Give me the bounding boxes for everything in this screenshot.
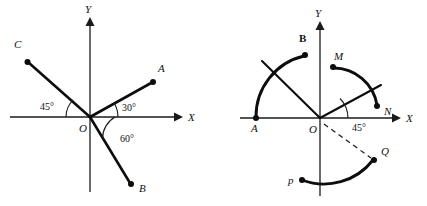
point-b-dot-right <box>302 52 308 58</box>
angle-arc-60 <box>103 117 116 139</box>
right-x-axis-arrowhead <box>392 114 401 123</box>
point-b-dot <box>128 181 134 187</box>
geometry-figure: C A B O X Y 45° 30° 60° <box>0 0 427 206</box>
right-y-axis-arrowhead <box>316 21 325 30</box>
label-x-axis-left: X <box>187 111 196 123</box>
label-point-p: p <box>287 174 294 186</box>
label-point-a-right: A <box>250 122 258 134</box>
point-m-dot <box>330 64 336 70</box>
label-origin-left: O <box>79 122 87 134</box>
label-point-b-right: B <box>299 32 307 44</box>
label-y-axis-right: Y <box>315 7 323 19</box>
angle-arc-30 <box>114 103 118 117</box>
label-angle-30-left: 30° <box>122 102 136 113</box>
right-diagram: B M N A Q p O X Y 45° <box>240 7 414 196</box>
left-x-axis-arrowhead <box>174 113 183 122</box>
left-y-axis-arrowhead <box>86 17 95 26</box>
ray-upper-left <box>262 61 320 118</box>
label-origin-right: O <box>309 123 317 135</box>
label-angle-60-left: 60° <box>120 133 134 144</box>
label-point-m: M <box>333 50 344 62</box>
ray-to-point-a <box>90 83 152 118</box>
label-angle-45-left: 45° <box>40 101 54 112</box>
label-point-b: B <box>139 182 146 194</box>
point-a-dot <box>150 79 156 85</box>
label-point-n: N <box>383 105 392 117</box>
point-p-dot <box>299 177 305 183</box>
figure-root: C A B O X Y 45° 30° 60° <box>0 0 427 206</box>
left-diagram: C A B O X Y 45° 30° 60° <box>10 3 196 194</box>
point-a-dot-right <box>253 115 259 121</box>
angle-arc-45-right <box>340 99 348 119</box>
arc-a-to-b <box>256 56 304 117</box>
point-n-dot <box>374 103 380 109</box>
label-point-c: C <box>14 38 22 50</box>
ray-to-point-c <box>29 63 91 118</box>
point-q-dot <box>371 157 377 163</box>
point-c-dot <box>25 59 31 65</box>
arc-p-to-q <box>302 160 373 184</box>
ray-to-point-b <box>90 117 130 183</box>
label-y-axis-left: Y <box>85 3 93 15</box>
label-angle-45-right: 45° <box>352 122 366 133</box>
label-point-q: Q <box>381 145 389 157</box>
label-point-a: A <box>157 62 165 74</box>
label-x-axis-right: X <box>405 112 414 124</box>
